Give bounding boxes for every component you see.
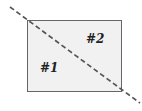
region-label-1: #1 <box>40 61 58 75</box>
diagram-canvas: #2 #1 <box>0 0 142 111</box>
region-label-2: #2 <box>86 32 104 46</box>
rectangle-region <box>28 21 122 92</box>
